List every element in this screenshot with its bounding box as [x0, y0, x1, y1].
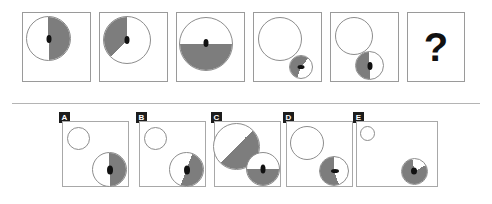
option-panel-b[interactable] [139, 121, 206, 187]
option-panel-a[interactable] [62, 121, 129, 187]
option-panel-e[interactable] [356, 121, 438, 187]
pip-marker [261, 165, 266, 174]
pip-marker [331, 169, 339, 173]
circle-large-empty [258, 17, 302, 61]
circle-tiny-top-empty [360, 126, 375, 141]
question-mark: ? [408, 13, 464, 81]
pip-marker [184, 165, 190, 174]
circle-small-top-empty [144, 127, 167, 150]
circle-large-empty [335, 17, 373, 55]
option-panel-d[interactable] [286, 121, 353, 187]
sequence-panel-5[interactable] [330, 12, 399, 82]
pip-marker [298, 65, 305, 69]
circle-small-top-empty [67, 127, 90, 150]
pip-marker [107, 165, 113, 174]
pip-marker [125, 36, 130, 44]
sequence-panel-1[interactable] [22, 12, 91, 82]
puzzle-stage: ? A B C [0, 0, 492, 204]
option-panel-c[interactable] [214, 121, 281, 187]
pip-marker [204, 39, 209, 47]
pip-marker [367, 62, 372, 70]
section-divider [12, 103, 480, 104]
sequence-panel-question[interactable]: ? [407, 12, 465, 82]
pip-marker [46, 35, 51, 43]
pip-marker [411, 168, 417, 175]
circle-large-top-empty [290, 126, 324, 160]
sequence-panel-4[interactable] [253, 12, 322, 82]
sequence-panel-2[interactable] [99, 12, 168, 82]
sequence-panel-3[interactable] [176, 12, 245, 82]
